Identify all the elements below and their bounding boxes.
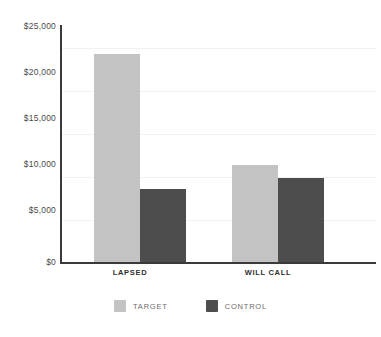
legend-label-control: CONTROL [225,302,267,311]
bar-willcall-target [232,165,278,263]
legend-item-target[interactable]: TARGET [114,300,168,312]
legend-swatch-target-icon [114,300,126,312]
y-axis-line [60,25,62,264]
bar-lapsed-control [140,189,186,263]
legend-item-control[interactable]: CONTROL [206,300,267,312]
gridline-25000 [60,48,376,49]
y-tick-label: $15,000 [4,113,56,123]
bar-willcall-control [278,178,324,263]
legend-swatch-control-icon [206,300,218,312]
y-tick-label: $5,000 [4,205,56,215]
y-tick-label: $0 [4,257,56,267]
x-axis-line [60,262,376,264]
plot-area [60,26,376,263]
y-tick-label: $20,000 [4,67,56,77]
legend-label-target: TARGET [133,302,168,311]
bar-chart: $25,000 $20,000 $15,000 $10,000 $5,000 $… [0,0,381,337]
y-axis-tick-labels: $25,000 $20,000 $15,000 $10,000 $5,000 $… [0,0,56,337]
chart-legend: TARGET CONTROL [0,300,381,312]
category-label-will-call: WILL CALL [212,268,324,277]
y-tick-label: $25,000 [4,21,56,31]
category-label-lapsed: LAPSED [74,268,186,277]
y-tick-label: $10,000 [4,159,56,169]
bar-lapsed-target [94,54,140,263]
